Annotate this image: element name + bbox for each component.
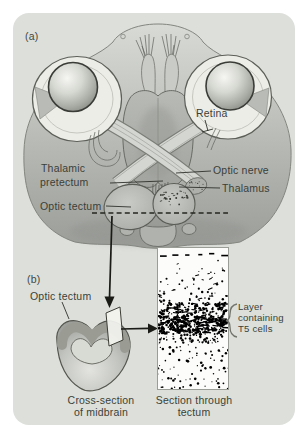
neuroanatomy-figure: (a) Retina Thalamic pretectum Optic nerv…: [0, 0, 307, 438]
label-thalamic-pretectum-line1: Thalamic: [41, 162, 85, 174]
right-lens: [206, 62, 254, 110]
left-lens: [49, 63, 98, 112]
label-optic-nerve: Optic nerve: [213, 164, 269, 176]
label-optic-tectum-a: Optic tectum: [40, 200, 101, 212]
right-nostril: [185, 34, 190, 39]
caption-cross-section-line2: of midbrain: [74, 406, 128, 418]
label-t5-line2: containing: [238, 312, 284, 323]
label-t5-line3: T5 cells: [238, 323, 273, 334]
label-thalamus: Thalamus: [222, 182, 270, 194]
left-eye: [33, 57, 122, 142]
caption-section-line1: Section through: [156, 394, 233, 406]
caption-cross-section-line1: Cross-section: [68, 394, 135, 406]
label-panel-a: (a): [25, 30, 38, 42]
caption-section-line2: tectum: [178, 406, 211, 418]
tectum-section-image: [158, 248, 229, 390]
left-nostril: [121, 34, 126, 39]
label-thalamic-pretectum-line2: pretectum: [40, 176, 89, 188]
label-retina: Retina: [196, 107, 228, 119]
slice-plane: [106, 307, 123, 346]
label-t5-line1: Layer: [238, 301, 264, 312]
label-optic-tectum-b: Optic tectum: [30, 290, 91, 302]
figure-canvas: (a) Retina Thalamic pretectum Optic nerv…: [0, 0, 307, 438]
right-eye: [185, 55, 272, 139]
label-panel-b: (b): [27, 273, 40, 285]
